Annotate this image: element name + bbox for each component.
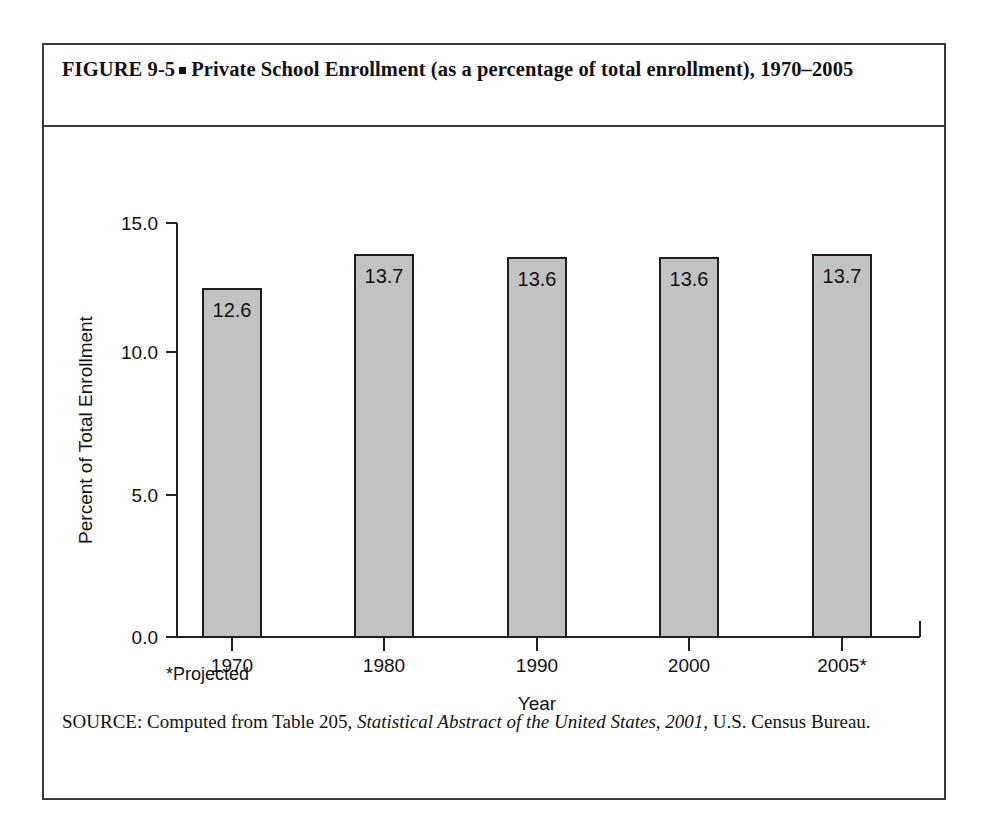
bar-group-1980[interactable]: 13.7 [355,255,413,637]
bar-group-1990[interactable]: 13.6 [508,258,566,637]
y-tick-label-15: 15.0 [121,213,158,234]
bar-1970[interactable] [203,289,261,637]
bar-value-1970: 12.6 [213,299,252,321]
bar-value-1990: 13.6 [518,268,557,290]
bar-value-2005: 13.7 [823,265,862,287]
x-tick-label-1980: 1980 [363,655,405,676]
x-tick-label-1990: 1990 [516,655,558,676]
bar-1990[interactable] [508,258,566,637]
y-tick-label-0: 0.0 [132,627,158,648]
y-tick-label-5: 5.0 [132,485,158,506]
figure-caption-text: FIGURE 9-5Private School Enrollment (as … [62,55,884,84]
source-suffix: U.S. Census Bureau. [708,711,871,732]
figure-source: SOURCE: Computed from Table 205, Statist… [62,708,920,736]
figure-caption-title: Private School Enrollment (as a percenta… [191,58,853,80]
bar-1980[interactable] [355,255,413,637]
figure-caption-block: FIGURE 9-5Private School Enrollment (as … [44,45,944,127]
y-axis-title: Percent of Total Enrollment [75,315,96,543]
bar-2000[interactable] [660,258,718,637]
bar-value-1980: 13.7 [365,265,404,287]
figure-number-label: FIGURE 9-5 [62,58,175,80]
y-axis: 15.0 10.0 5.0 0.0 Percent of Total Enrol… [75,213,177,648]
bar-group-1970[interactable]: 12.6 [203,289,261,637]
source-italic-title: Statistical Abstract of the United State… [357,711,708,732]
figure-frame: FIGURE 9-5Private School Enrollment (as … [42,43,946,800]
bar-series: 12.6 13.7 13.6 13.6 13.7 [203,255,871,637]
square-bullet-icon [179,67,186,74]
x-tick-label-2005: 2005* [817,655,867,676]
chart-plot-area: 15.0 10.0 5.0 0.0 Percent of Total Enrol… [44,127,948,800]
bar-value-2000: 13.6 [670,268,709,290]
bar-chart-svg: 15.0 10.0 5.0 0.0 Percent of Total Enrol… [44,127,948,800]
bar-group-2000[interactable]: 13.6 [660,258,718,637]
bar-2005[interactable] [813,255,871,637]
x-tick-label-2000: 2000 [668,655,710,676]
chart-footnote: *Projected [166,664,249,685]
bar-group-2005[interactable]: 13.7 [813,255,871,637]
y-tick-label-10: 10.0 [121,342,158,363]
source-prefix: SOURCE: Computed from Table 205, [62,711,357,732]
